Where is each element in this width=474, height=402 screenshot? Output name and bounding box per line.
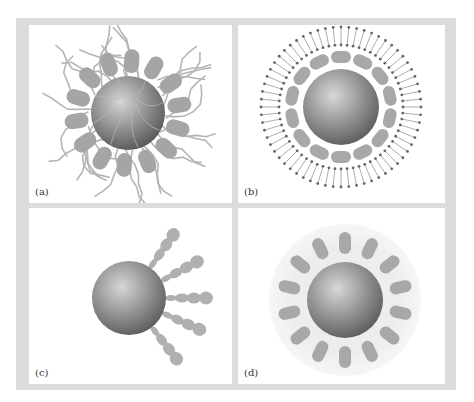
figure-frame: (a) (b) [16, 18, 456, 390]
core-sphere [307, 262, 383, 338]
core-sphere [91, 76, 165, 150]
panel-label: (b) [244, 186, 258, 197]
liposome-encapsulated-particle-diagram [238, 25, 445, 203]
core-sphere [92, 261, 166, 335]
panel-label: (a) [35, 186, 49, 197]
panel-c: (c) [29, 208, 232, 384]
panel-label: (d) [244, 367, 258, 378]
panel-label: (c) [35, 367, 48, 378]
panel-a: (a) [29, 25, 232, 203]
panel-b: (b) [238, 25, 445, 203]
polymer-coated-particle-diagram [29, 25, 232, 203]
chain-grafted-particle-diagram [29, 208, 232, 384]
panel-d: (d) [238, 208, 445, 384]
core-sphere [303, 69, 379, 145]
halo-encapsulated-particle-diagram [238, 208, 445, 384]
